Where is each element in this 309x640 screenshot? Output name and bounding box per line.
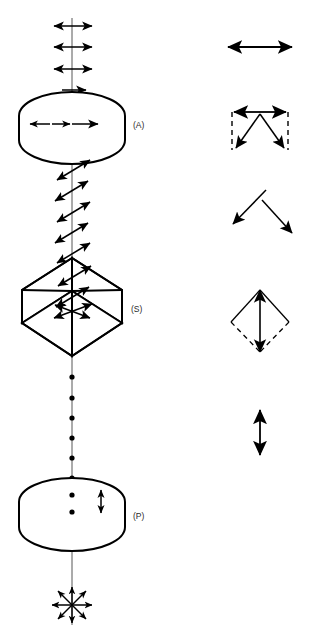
legend-horizontal-resolved-components xyxy=(232,112,288,150)
legend-vertical-resultant xyxy=(231,290,289,352)
component-label-p: (P) xyxy=(133,511,145,521)
legend-diagonal-component-pair xyxy=(233,190,292,233)
sample-cube[interactable] xyxy=(22,258,122,356)
stage-rotated-linear-between-analyzer-and-sample xyxy=(55,160,90,263)
component-label-a: (A) xyxy=(133,120,145,130)
stage-horizontal-linear-above-analyzer xyxy=(54,26,92,69)
figure-root: (A) xyxy=(0,0,309,640)
component-label-s: (S) xyxy=(131,304,143,314)
polarizer-disc[interactable] xyxy=(19,478,125,551)
polarization-diagram: (A) xyxy=(0,0,309,640)
analyzer-disc[interactable] xyxy=(19,92,125,164)
stage-unpolarized-starburst xyxy=(52,587,92,623)
